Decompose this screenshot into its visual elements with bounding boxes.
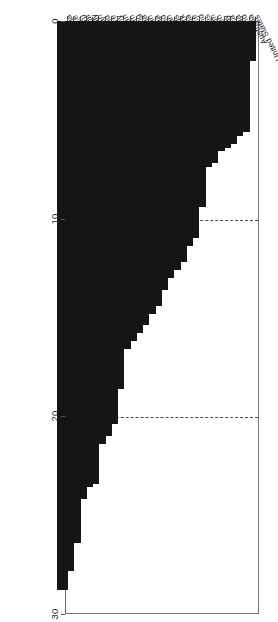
rotated-figure: United StatesAustraliaIrelandCanadaSouth… <box>0 0 278 622</box>
bars-layer <box>65 21 259 614</box>
value-tick <box>61 416 65 417</box>
value-axis: 0102030 <box>39 21 65 614</box>
value-tick-label: 10 <box>49 213 60 224</box>
category-axis-labels: United StatesAustraliaIrelandCanadaSouth… <box>65 0 259 21</box>
value-tick-label: 20 <box>49 411 60 422</box>
bar-chart: United StatesAustraliaIrelandCanadaSouth… <box>0 0 278 622</box>
value-tick-label: 0 <box>49 18 60 23</box>
value-tick <box>61 21 65 22</box>
value-tick <box>61 614 65 615</box>
value-tick-label: 30 <box>49 609 60 620</box>
value-tick <box>61 219 65 220</box>
